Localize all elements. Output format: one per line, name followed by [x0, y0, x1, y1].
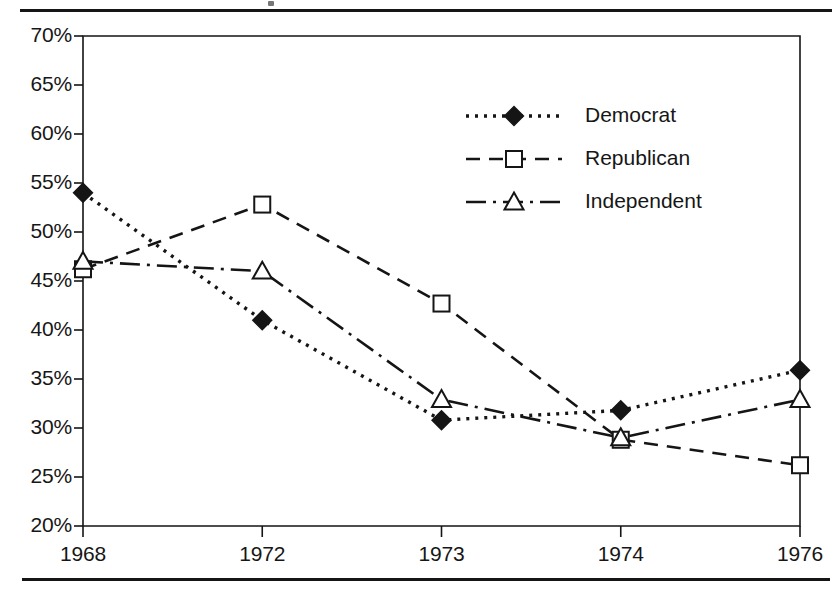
- series-republican: [75, 197, 808, 474]
- y-axis-tick-label: 60%: [4, 121, 72, 145]
- figure-container: 70%65%60%55%50%45%40%35%30%25%20% 196819…: [0, 0, 839, 596]
- data-point-marker-open-square: [792, 457, 808, 473]
- y-axis-tick-label: 40%: [4, 317, 72, 341]
- y-axis-tick-label: 65%: [4, 72, 72, 96]
- data-point-marker-open-triangle: [791, 390, 810, 407]
- y-axis-tick-label: 30%: [4, 415, 72, 439]
- x-axis-tick-label: 1972: [217, 542, 307, 566]
- x-axis-tick-label: 1974: [576, 542, 666, 566]
- plot-border: [83, 36, 800, 526]
- x-axis-tick-label: 1973: [397, 542, 487, 566]
- data-point-marker-open-square: [506, 151, 522, 167]
- series-group: [74, 183, 810, 473]
- legend-label-democrat: Democrat: [585, 103, 676, 127]
- data-point-marker-open-triangle: [432, 390, 451, 407]
- data-point-marker-filled-diamond: [791, 361, 810, 380]
- data-point-marker-filled-diamond: [611, 401, 630, 420]
- legend-label-republican: Republican: [585, 146, 690, 170]
- line-chart-plot: [0, 0, 839, 596]
- y-axis-tick-label: 20%: [4, 513, 72, 537]
- y-axis-tick-label: 45%: [4, 268, 72, 292]
- axes-group: [74, 36, 800, 537]
- x-axis-tick-label: 1976: [755, 542, 839, 566]
- y-axis-tick-label: 55%: [4, 170, 72, 194]
- legend-sample-lines: [466, 107, 562, 210]
- y-axis-tick-label: 50%: [4, 219, 72, 243]
- data-point-marker-filled-diamond: [253, 311, 272, 330]
- x-axis-tick-label: 1968: [38, 542, 128, 566]
- data-point-marker-open-square: [434, 296, 450, 312]
- y-axis-tick-label: 35%: [4, 366, 72, 390]
- y-axis-tick-label: 70%: [4, 23, 72, 47]
- data-point-marker-filled-diamond: [432, 411, 451, 430]
- bottom-horizontal-rule: [22, 578, 830, 581]
- legend-label-independent: Independent: [585, 189, 702, 213]
- y-axis-tick-label: 25%: [4, 464, 72, 488]
- data-point-marker-open-square: [254, 197, 270, 213]
- data-point-marker-open-triangle: [253, 262, 272, 279]
- data-point-marker-filled-diamond: [505, 107, 524, 126]
